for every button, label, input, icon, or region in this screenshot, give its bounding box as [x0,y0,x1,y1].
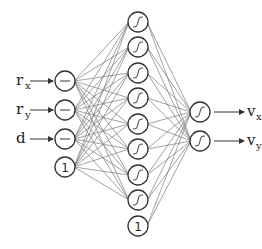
input-label-rx: rx [16,71,53,91]
edge [74,22,129,81]
edge [147,112,191,226]
svg-text:d: d [16,129,26,147]
network-nodes: 11 [55,12,210,236]
hidden-node-bias: 1 [128,216,148,236]
input-node-linear [55,129,75,149]
edge [147,112,191,200]
svg-text:y: y [255,140,262,151]
edge [74,124,129,139]
svg-text:v: v [246,102,256,120]
edge [74,47,129,167]
neural-network-diagram: 11 rxrydvxvy [0,0,262,249]
input-node-linear [55,100,75,120]
hidden-node-sigmoid [128,114,148,134]
svg-text:x: x [256,111,262,122]
output-node-sigmoid [190,102,210,122]
hidden-node-sigmoid [128,139,148,159]
edge [147,47,191,112]
edge [147,141,191,149]
svg-text:y: y [24,109,31,120]
hidden-node-sigmoid [128,190,148,210]
edge [147,141,191,226]
svg-text:x: x [25,80,31,91]
edge [74,110,129,200]
output-label-vy: vy [214,131,262,151]
output-node-sigmoid [190,131,210,151]
hidden-node-sigmoid [128,88,148,108]
input-node-linear [55,71,75,91]
hidden-node-sigmoid [128,12,148,32]
input-label-d: d [16,129,53,147]
edge [74,167,129,175]
svg-text:r: r [16,100,24,118]
hidden-node-sigmoid [128,37,148,57]
input-node-bias: 1 [55,157,75,177]
hidden-node-sigmoid [128,63,148,83]
edge [147,73,191,112]
edge [74,22,129,110]
edge [74,47,129,81]
edge [147,98,191,141]
svg-text:r: r [16,71,24,89]
edge [147,98,191,112]
edge [74,149,129,167]
edge [147,22,191,112]
edge [74,22,129,139]
edge [74,167,129,200]
edge [147,22,191,141]
input-label-ry: ry [16,100,53,120]
output-label-vx: vx [214,102,262,122]
edge [147,141,191,200]
edge [74,47,129,139]
bias-label: 1 [61,161,69,175]
bias-label: 1 [134,220,142,234]
hidden-node-sigmoid [128,165,148,185]
svg-text:v: v [246,131,256,149]
